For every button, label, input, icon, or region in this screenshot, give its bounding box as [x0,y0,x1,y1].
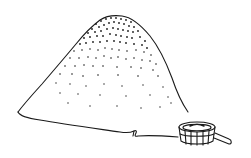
illustration-canvas [0,0,251,158]
grain-pile-illustration [0,0,251,158]
wooden-scoop [179,122,231,145]
grain-stipple [55,17,171,109]
grain-pile [18,16,188,137]
